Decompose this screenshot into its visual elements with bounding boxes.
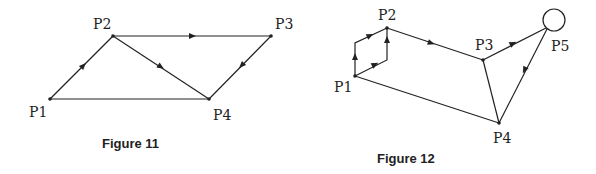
label-p4: P4 [493, 130, 511, 146]
arrow-icon [384, 36, 390, 43]
label-p2: P2 [93, 16, 111, 32]
node-p4 [207, 97, 211, 101]
edge-p1-p4 [355, 76, 499, 123]
arrow-icon [366, 31, 375, 39]
label-p2: P2 [378, 7, 396, 23]
arrow-icon [352, 53, 358, 60]
node-p5-circle [543, 9, 565, 31]
node-p1 [353, 74, 357, 78]
caption-figure-12: Figure 12 [377, 151, 435, 166]
label-p3: P3 [275, 16, 293, 32]
node-p3 [269, 34, 273, 38]
node-p1 [48, 97, 52, 101]
label-p3: P3 [475, 37, 493, 53]
label-p1: P1 [29, 104, 47, 120]
edge-p2-p3 [387, 28, 483, 60]
node-p4 [497, 121, 501, 125]
arrow-icon [427, 39, 436, 47]
edge-p5-p4 [499, 29, 547, 123]
node-p3 [481, 58, 485, 62]
node-p2 [111, 34, 115, 38]
figure-12: P1 P2 P3 P4 P5 Figure 12 [334, 7, 569, 166]
arrow-icon [189, 33, 196, 39]
edge-p3-p4 [483, 60, 499, 123]
node-p2 [385, 26, 389, 30]
caption-figure-11: Figure 11 [102, 136, 159, 151]
diagram-canvas: P1 P2 P3 P4 Figure 11 P1 P2 P3 P4 P5 Fig [0, 0, 596, 174]
figure-11: P1 P2 P3 P4 Figure 11 [29, 16, 293, 151]
label-p4: P4 [213, 107, 231, 123]
label-p1: P1 [334, 79, 352, 95]
label-p5: P5 [551, 38, 569, 54]
